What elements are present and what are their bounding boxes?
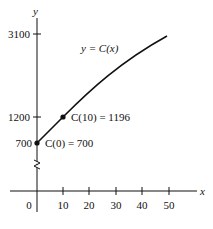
x-tick-label: 30 bbox=[111, 199, 123, 211]
x-axis-label: x bbox=[199, 185, 205, 197]
point-c0 bbox=[34, 140, 39, 145]
x-tick-label: 40 bbox=[137, 199, 149, 211]
x-tick-label: 10 bbox=[58, 199, 70, 211]
x-tick-label: 50 bbox=[164, 199, 176, 211]
y-tick-label: 700 bbox=[16, 137, 33, 149]
chart: y x 3100 1200 700 0 10 20 30 40 50 y = C… bbox=[0, 0, 213, 229]
annotation-c0: C(0) = 700 bbox=[45, 137, 94, 150]
point-c10 bbox=[60, 114, 65, 119]
y-tick-label: 1200 bbox=[8, 111, 31, 123]
x-tick-label: 20 bbox=[84, 199, 96, 211]
x-tick-label: 0 bbox=[26, 199, 32, 211]
curve-label: y = C(x) bbox=[80, 42, 119, 55]
y-axis-label: y bbox=[32, 5, 38, 17]
annotation-c10: C(10) = 1196 bbox=[71, 111, 130, 124]
axis-break-icon bbox=[34, 160, 40, 169]
y-tick-label: 3100 bbox=[8, 28, 31, 40]
